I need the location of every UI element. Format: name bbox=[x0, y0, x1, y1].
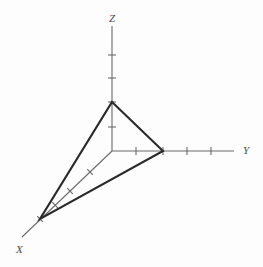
y-axis-group bbox=[112, 147, 234, 155]
x-axis-label: X bbox=[15, 243, 24, 255]
z-axis-group bbox=[108, 26, 116, 151]
x-axis-line bbox=[22, 151, 112, 237]
figure-root: Z Y X bbox=[0, 0, 263, 267]
z-axis-label: Z bbox=[109, 12, 116, 24]
axes-diagram: Z Y X bbox=[0, 0, 263, 267]
x-axis-group bbox=[22, 151, 112, 237]
y-axis-label: Y bbox=[243, 144, 251, 156]
